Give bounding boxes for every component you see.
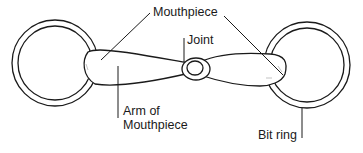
- left-mouthpiece-arm: [84, 50, 194, 85]
- label-arm-line2: Mouthpiece: [123, 118, 188, 132]
- label-joint: Joint: [187, 33, 213, 47]
- snaffle-bit-diagram: Mouthpiece Joint Arm of Mouthpiece Bit r…: [0, 0, 363, 153]
- right-mouthpiece-arm: [200, 53, 286, 86]
- joint-link: [182, 58, 210, 80]
- label-bit-ring: Bit ring: [258, 128, 297, 142]
- label-arm-line1: Arm of: [123, 104, 160, 118]
- label-mouthpiece: Mouthpiece: [153, 5, 218, 19]
